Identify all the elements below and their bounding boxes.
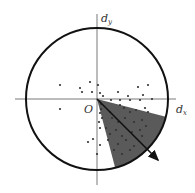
data-point [133, 121, 135, 123]
data-point [151, 98, 153, 100]
data-point [111, 117, 113, 119]
data-point [141, 119, 143, 121]
data-point [99, 144, 101, 146]
x-axis-label: dx [176, 103, 187, 117]
data-point [129, 111, 131, 113]
data-point [121, 153, 123, 155]
data-point [129, 149, 131, 151]
data-point [129, 99, 131, 101]
data-point [89, 81, 91, 83]
data-point [117, 91, 119, 93]
data-point [96, 153, 98, 155]
y-axis-label-main: d [101, 12, 108, 25]
data-point [99, 112, 101, 114]
data-point [87, 141, 89, 143]
data-point [102, 95, 104, 97]
data-point [97, 84, 99, 86]
data-point [107, 139, 109, 141]
data-point [145, 125, 147, 127]
data-point [99, 92, 101, 94]
data-point [105, 127, 107, 129]
data-point [98, 121, 100, 123]
data-point [133, 145, 135, 147]
data-point [92, 138, 94, 140]
data-point [127, 95, 129, 97]
data-point [115, 129, 117, 131]
data-point [99, 127, 101, 129]
x-axis-label-sub: x [183, 109, 187, 117]
data-point [101, 117, 103, 119]
data-point [81, 91, 83, 93]
data-point [113, 149, 115, 151]
data-point [142, 94, 144, 96]
data-point [124, 117, 126, 119]
data-point [119, 104, 121, 106]
data-point [91, 91, 93, 93]
data-point [123, 107, 125, 109]
data-point [59, 108, 61, 110]
data-point [135, 109, 137, 111]
data-point [121, 135, 123, 137]
data-point [139, 129, 141, 131]
data-point [147, 111, 149, 113]
data-point [147, 84, 149, 86]
data-point [100, 108, 102, 110]
data-point [141, 135, 143, 137]
data-point [79, 87, 81, 89]
x-axis-label-main: d [176, 103, 183, 116]
data-point [137, 86, 139, 88]
y-axis-label-sub: y [107, 18, 113, 26]
data-point [110, 99, 112, 101]
data-point [109, 133, 111, 135]
data-point [59, 84, 61, 86]
data-point [125, 139, 127, 141]
data-point [117, 143, 119, 145]
y-axis-label: dy [101, 12, 113, 26]
data-point [119, 99, 121, 101]
data-point [144, 107, 146, 109]
vector-diagram: O dx dy [0, 0, 195, 193]
origin-label: O [84, 103, 93, 116]
data-point [139, 99, 141, 101]
